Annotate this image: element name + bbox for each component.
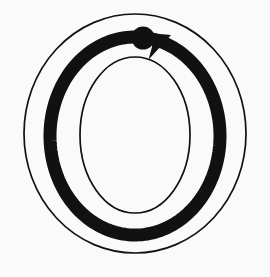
letter-formation-diagram: Letter O formation guide Outlined capita… — [0, 0, 270, 277]
stroke-start-dot-icon — [132, 27, 155, 50]
letter-formation-canvas — [0, 0, 270, 277]
